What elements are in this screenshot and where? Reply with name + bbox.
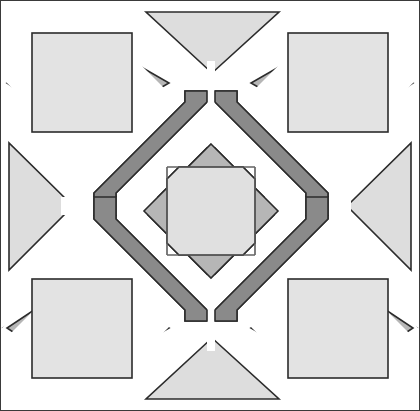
corner-square-top-right [288, 33, 388, 132]
corner-square-bottom-left [32, 279, 132, 378]
center-octagon-top [167, 167, 255, 255]
figure-root [0, 0, 420, 411]
geometric-pattern-canvas [1, 1, 419, 410]
corner-square-bottom-right [288, 279, 388, 378]
corner-square-top-left [32, 33, 132, 132]
